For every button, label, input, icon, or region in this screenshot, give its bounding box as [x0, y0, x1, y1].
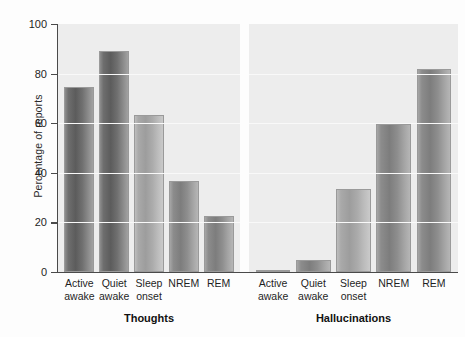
gridline	[58, 222, 240, 223]
gridline	[58, 173, 240, 174]
y-axis-tick	[51, 272, 57, 273]
y-axis-tick	[51, 173, 57, 174]
category-label-line: Sleep	[333, 277, 373, 290]
x-axis-category-label: Quietawake	[293, 277, 333, 302]
gridline	[58, 123, 240, 124]
y-axis-tick-label: 60	[7, 117, 47, 129]
y-axis-tick-label: 20	[7, 216, 47, 228]
group-title-hallucinations: Hallucinations	[249, 312, 458, 324]
category-label-line: Quiet	[293, 277, 333, 290]
bar	[296, 260, 331, 272]
x-axis-line	[57, 272, 458, 273]
y-axis-tick-label: 100	[7, 18, 47, 30]
category-label-line: NREM	[374, 277, 414, 290]
x-axis-category-label: Activeawake	[62, 277, 97, 302]
chart-figure: Percentage of reports 020406080100Active…	[0, 0, 465, 337]
category-label-line: onset	[333, 290, 373, 303]
bar	[169, 181, 199, 272]
y-axis-tick-label: 80	[7, 68, 47, 80]
category-label-line: awake	[62, 290, 97, 303]
y-axis-tick	[51, 24, 57, 25]
bar	[376, 124, 411, 272]
bar-group-hallucinations	[249, 24, 458, 272]
category-label-line: Quiet	[97, 277, 132, 290]
gridline	[58, 74, 240, 75]
category-label-line: awake	[97, 290, 132, 303]
y-axis-tick-label: 0	[7, 266, 47, 278]
x-axis-category-label: Activeawake	[253, 277, 293, 302]
plot-panel-hallucinations	[249, 24, 458, 272]
group-title-thoughts: Thoughts	[58, 312, 240, 324]
x-axis-category-label: NREM	[374, 277, 414, 290]
bar	[134, 115, 164, 272]
category-label-line: onset	[132, 290, 167, 303]
category-label-line: awake	[293, 290, 333, 303]
bar	[417, 69, 452, 272]
gridline	[249, 74, 458, 75]
x-axis-category-label: NREM	[166, 277, 201, 290]
category-label-line: REM	[414, 277, 454, 290]
bar	[336, 189, 371, 272]
x-axis-category-label: Quietawake	[97, 277, 132, 302]
gridline	[249, 123, 458, 124]
category-label-line: Sleep	[132, 277, 167, 290]
x-axis-category-label: REM	[414, 277, 454, 290]
category-label-line: REM	[201, 277, 236, 290]
y-axis-line	[57, 24, 58, 273]
x-axis-category-label: Sleeponset	[132, 277, 167, 302]
gridline	[249, 173, 458, 174]
plot-panel-thoughts	[58, 24, 240, 272]
category-label-line: Active	[62, 277, 97, 290]
bar	[99, 51, 129, 272]
x-axis-category-label: REM	[201, 277, 236, 290]
bar-group-thoughts	[58, 24, 240, 272]
y-axis-tick	[51, 123, 57, 124]
y-axis-tick-label: 40	[7, 167, 47, 179]
y-axis-tick	[51, 74, 57, 75]
category-label-line: awake	[253, 290, 293, 303]
y-axis-tick	[51, 222, 57, 223]
category-label-line: NREM	[166, 277, 201, 290]
x-axis-category-label: Sleeponset	[333, 277, 373, 302]
gridline	[249, 222, 458, 223]
bar	[64, 87, 94, 272]
bar	[204, 216, 234, 272]
category-label-line: Active	[253, 277, 293, 290]
